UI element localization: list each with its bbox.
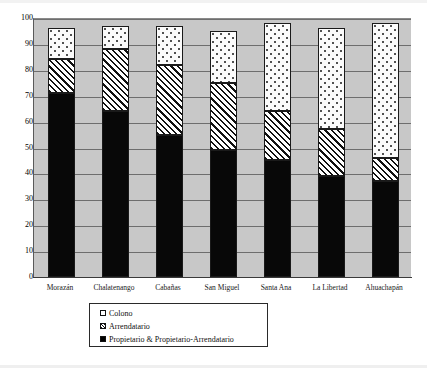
legend-label-colono: Colono — [109, 309, 133, 318]
x-tick-label: Morazán — [47, 283, 74, 292]
y-tick-label: 70 — [7, 92, 33, 100]
bar-segment-propietario[interactable] — [210, 150, 237, 277]
legend-item-arrendatario: Arrendatario — [100, 320, 267, 332]
legend-label-propietario: Propietario & Propietario-Arrendatario — [109, 335, 234, 344]
bar-segment-colono[interactable] — [156, 26, 183, 65]
bar-segment-colono[interactable] — [48, 28, 75, 59]
y-tick-label: 20 — [7, 221, 33, 229]
bar-segment-arrendatario[interactable] — [264, 111, 291, 160]
bar-segment-colono[interactable] — [102, 26, 129, 49]
gridline — [34, 19, 411, 20]
y-tick-label: 40 — [7, 169, 33, 177]
bar-segment-arrendatario[interactable] — [210, 83, 237, 150]
y-tick-label: 50 — [7, 144, 33, 152]
y-tick-label: 30 — [7, 195, 33, 203]
x-tick-label: San Miguel — [205, 283, 240, 292]
x-tick-label: Cabañas — [155, 283, 180, 292]
bar-segment-propietario[interactable] — [318, 176, 345, 277]
hatched-square-icon — [100, 323, 106, 329]
chart-legend: Colono Arrendatario Propietario & Propie… — [89, 303, 268, 347]
legend-item-propietario: Propietario & Propietario-Arrendatario — [100, 333, 267, 345]
bar-segment-propietario[interactable] — [102, 111, 129, 277]
x-tick-label: La Libertad — [312, 283, 347, 292]
chart-figure: 0102030405060708090100 Colono Arrendatar… — [0, 0, 427, 368]
legend-item-colono: Colono — [100, 307, 267, 319]
bar-segment-arrendatario[interactable] — [156, 65, 183, 135]
y-tick-label: 90 — [7, 40, 33, 48]
y-tick-label: 100 — [7, 14, 33, 22]
bar-segment-propietario[interactable] — [372, 181, 399, 277]
bar-segment-arrendatario[interactable] — [48, 59, 75, 93]
x-tick-label: Chalatenango — [93, 283, 134, 292]
bar-segment-arrendatario[interactable] — [102, 49, 129, 111]
bar-segment-colono[interactable] — [210, 31, 237, 83]
y-tick-label: 60 — [7, 118, 33, 126]
bar-segment-propietario[interactable] — [264, 160, 291, 277]
x-tick-label: Ahuachapán — [365, 283, 402, 292]
x-axis-baseline — [33, 277, 412, 278]
bar-segment-propietario[interactable] — [48, 93, 75, 277]
scan-edge-top — [0, 0, 427, 3]
legend-label-arrendatario: Arrendatario — [109, 322, 150, 331]
y-axis: 0102030405060708090100 — [0, 18, 33, 278]
bar-segment-arrendatario[interactable] — [372, 158, 399, 181]
bar-segment-colono[interactable] — [372, 23, 399, 158]
dotted-square-icon — [100, 310, 106, 316]
bar-segment-colono[interactable] — [264, 23, 291, 111]
y-tick-label: 80 — [7, 66, 33, 74]
bar-segment-arrendatario[interactable] — [318, 129, 345, 176]
x-tick-label: Santa Ana — [261, 283, 292, 292]
y-tick-label: 10 — [7, 247, 33, 255]
bar-segment-colono[interactable] — [318, 28, 345, 129]
plot-area — [33, 18, 411, 277]
black-square-icon — [100, 336, 106, 342]
y-tick-label: 0 — [7, 273, 33, 281]
bar-segment-propietario[interactable] — [156, 135, 183, 277]
